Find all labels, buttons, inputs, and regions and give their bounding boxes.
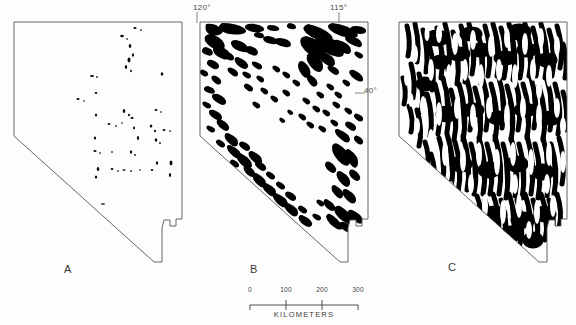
map-a-specks <box>76 27 172 205</box>
map-c-fill-group <box>381 14 571 264</box>
latitude-label-40: 40° <box>364 86 377 95</box>
scale-label-100: 100 <box>280 286 291 293</box>
nevada-map-b-svg <box>190 14 380 264</box>
nevada-map-c-svg <box>381 14 571 264</box>
figure-container: 120° 115° 40° A B C 0 100 200 300 KILOME… <box>0 0 576 325</box>
scale-bar-caption: KILOMETERS <box>244 310 364 319</box>
longitude-label-115: 115° <box>330 3 347 12</box>
panel-label-a: A <box>64 263 72 275</box>
map-panel-b <box>190 14 380 264</box>
map-panel-c <box>381 14 571 264</box>
map-b-patches <box>200 23 366 233</box>
nevada-map-a-svg <box>4 14 194 264</box>
panel-label-c: C <box>448 261 456 273</box>
longitude-label-120: 120° <box>193 3 211 12</box>
scale-label-200: 200 <box>316 286 327 293</box>
map-panel-a <box>4 14 194 264</box>
scale-label-300: 300 <box>352 286 363 293</box>
map-b-fill-group <box>200 23 366 233</box>
panel-label-b: B <box>250 263 258 275</box>
map-a-fill-group <box>76 27 172 205</box>
nevada-outline-a <box>14 22 182 262</box>
scale-label-0: 0 <box>248 286 252 293</box>
